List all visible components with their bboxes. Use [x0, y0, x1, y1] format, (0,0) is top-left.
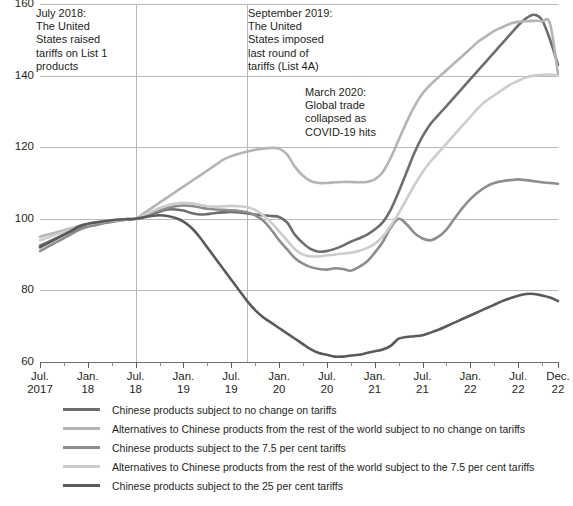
- annotation-september-2019: September 2019:The UnitedStates imposedl…: [248, 7, 353, 73]
- x-tick-2022-04: [494, 362, 495, 366]
- x-tick-2019-04: [207, 362, 208, 366]
- x-tick-label-month: Jan.: [459, 370, 481, 382]
- annotation-line: States imposed: [248, 33, 353, 46]
- legend-swatch-1: [63, 427, 100, 430]
- chart-area: 6080100120140160 Jul.2017Jan.18Jul.18Jan…: [0, 0, 573, 396]
- annotation-march-2020: March 2020:Global tradecollapsed asCOVID…: [305, 86, 405, 139]
- x-tick-2018-10: [160, 362, 161, 366]
- legend-swatch-0: [63, 408, 100, 411]
- legend-item-3[interactable]: Alternatives to Chinese products from th…: [0, 457, 573, 476]
- series-line-4: [40, 215, 558, 357]
- x-tick-label-month: Jul.: [414, 370, 432, 382]
- series-line-2: [40, 179, 558, 270]
- x-tick-label-month: Jul.: [127, 370, 145, 382]
- x-tick-label-month: Jul.: [509, 370, 527, 382]
- x-tick-2019-10: [255, 362, 256, 366]
- annotation-line: products: [36, 60, 131, 73]
- legend-item-0[interactable]: Chinese products subject to no change on…: [0, 400, 573, 419]
- annotation-line: collapsed as: [305, 112, 405, 125]
- legend-item-4[interactable]: Chinese products subject to the 25 per c…: [0, 476, 573, 495]
- x-tick-2022-12: [558, 362, 559, 368]
- y-tick-label-100: 100: [2, 213, 34, 225]
- x-tick-2020-04: [303, 362, 304, 366]
- annotation-line: tariffs (List 4A): [248, 60, 353, 73]
- annotation-july-2018: July 2018:The UnitedStates raisedtariffs…: [36, 7, 131, 73]
- x-tick-label-month: Jan.: [364, 370, 386, 382]
- annotation-line: Global trade: [305, 99, 405, 112]
- legend-label-4: Chinese products subject to the 25 per c…: [112, 480, 343, 492]
- y-tick-label-60: 60: [2, 356, 34, 368]
- x-tick-2022-01: [470, 362, 471, 368]
- legend-swatch-3: [63, 465, 100, 468]
- y-tick-label-120: 120: [2, 141, 34, 153]
- x-tick-2017-10: [64, 362, 65, 366]
- annotation-line: The United: [36, 20, 131, 33]
- legend-label-1: Alternatives to Chinese products from th…: [112, 423, 525, 435]
- x-tick-label-month: Dec.: [546, 370, 570, 382]
- x-tick-label-month: Jul.: [31, 370, 49, 382]
- x-tick-2022-07: [518, 362, 519, 368]
- annotation-line: September 2019:: [248, 7, 353, 20]
- annotation-line: July 2018:: [36, 7, 131, 20]
- legend-swatch-2: [63, 446, 100, 449]
- x-tick-2018-01: [88, 362, 89, 368]
- x-tick-2020-07: [327, 362, 328, 368]
- legend-label-3: Alternatives to Chinese products from th…: [112, 461, 534, 473]
- x-tick-2020-10: [351, 362, 352, 366]
- legend-label-2: Chinese products subject to the 7.5 per …: [112, 442, 346, 454]
- x-tick-2022-10: [542, 362, 543, 366]
- x-tick-label-year: 22: [530, 383, 573, 396]
- x-axis-line: [40, 362, 558, 363]
- y-tick-label-140: 140: [2, 70, 34, 82]
- y-tick-label-160: 160: [2, 0, 34, 10]
- x-axis-label-2022-12: Dec.22: [530, 370, 573, 395]
- x-tick-2018-04: [112, 362, 113, 366]
- annotation-line: States raised: [36, 33, 131, 46]
- annotation-line: COVID-19 hits: [305, 126, 405, 139]
- x-tick-2019-01: [183, 362, 184, 368]
- chart-page: 6080100120140160 Jul.2017Jan.18Jul.18Jan…: [0, 0, 573, 506]
- x-tick-label-month: Jan.: [77, 370, 99, 382]
- x-tick-2021-01: [375, 362, 376, 368]
- legend-swatch-4: [63, 484, 100, 487]
- x-tick-label-month: Jan.: [173, 370, 195, 382]
- x-tick-2021-04: [399, 362, 400, 366]
- x-tick-2020-01: [279, 362, 280, 368]
- x-tick-2019-07: [231, 362, 232, 368]
- legend-label-0: Chinese products subject to no change on…: [112, 404, 337, 416]
- x-tick-2021-07: [423, 362, 424, 368]
- legend-item-2[interactable]: Chinese products subject to the 7.5 per …: [0, 438, 573, 457]
- y-tick-label-80: 80: [2, 284, 34, 296]
- x-tick-label-month: Jul.: [222, 370, 240, 382]
- annotation-line: The United: [248, 20, 353, 33]
- x-tick-2018-07: [136, 362, 137, 368]
- x-tick-2021-10: [446, 362, 447, 366]
- annotation-line: last round of: [248, 47, 353, 60]
- legend-item-1[interactable]: Alternatives to Chinese products from th…: [0, 419, 573, 438]
- x-tick-label-month: Jul.: [318, 370, 336, 382]
- annotation-line: March 2020:: [305, 86, 405, 99]
- x-tick-label-month: Jan.: [268, 370, 290, 382]
- series-line-3: [40, 75, 558, 257]
- x-tick-2017-07: [40, 362, 41, 368]
- chart-legend: Chinese products subject to no change on…: [0, 400, 573, 506]
- annotation-line: tariffs on List 1: [36, 47, 131, 60]
